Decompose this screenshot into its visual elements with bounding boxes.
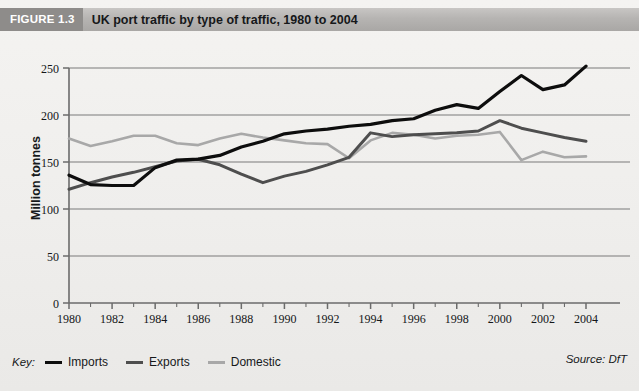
chart-plot-area: 050100150200250 198019821984198619881990… <box>0 31 639 343</box>
x-axis-ticks <box>69 303 586 309</box>
legend-label: Key: <box>12 356 35 368</box>
y-tick-label: 150 <box>41 156 59 170</box>
source-attribution: Source: DfT <box>566 353 627 365</box>
y-tick-label: 250 <box>41 62 59 76</box>
chart-legend: Key: Imports Exports Domestic <box>0 355 299 369</box>
x-tick-label: 2000 <box>488 312 512 326</box>
x-tick-label: 1986 <box>186 312 210 326</box>
x-tick-label: 1994 <box>359 312 383 326</box>
legend-text-exports: Exports <box>149 355 190 369</box>
legend-swatch-domestic <box>208 361 225 364</box>
figure-number-badge: FIGURE 1.3 <box>0 8 83 31</box>
y-tick-label: 0 <box>53 297 59 311</box>
legend-item-domestic: Domestic <box>208 355 281 369</box>
figure-title-bar: FIGURE 1.3 UK port traffic by type of tr… <box>0 8 639 31</box>
legend-swatch-imports <box>45 361 62 364</box>
series-line-domestic <box>69 132 586 160</box>
x-tick-label: 1996 <box>402 312 426 326</box>
gridlines <box>69 68 630 256</box>
x-tick-label: 1984 <box>143 312 167 326</box>
x-tick-label: 1982 <box>100 312 124 326</box>
figure-container: FIGURE 1.3 UK port traffic by type of tr… <box>0 0 639 391</box>
x-axis-tick-labels: 1980198219841986198819901992199419961998… <box>57 312 598 326</box>
legend-item-exports: Exports <box>126 355 190 369</box>
x-tick-label: 2002 <box>531 312 555 326</box>
page-title: UK port traffic by type of traffic, 1980… <box>83 13 358 27</box>
legend-text-imports: Imports <box>68 355 108 369</box>
x-tick-label: 1988 <box>229 312 253 326</box>
series-line-exports <box>69 121 586 190</box>
x-tick-label: 1998 <box>445 312 469 326</box>
legend-text-domestic: Domestic <box>231 355 281 369</box>
figure-footer: Key: Imports Exports Domestic Source: Df… <box>0 348 639 376</box>
x-tick-label: 2004 <box>574 312 598 326</box>
x-tick-label: 1992 <box>316 312 340 326</box>
y-axis-tick-labels: 050100150200250 <box>41 62 59 311</box>
y-axis-ticks <box>63 68 69 303</box>
y-tick-label: 50 <box>47 250 59 264</box>
x-tick-label: 1990 <box>272 312 296 326</box>
line-chart: 050100150200250 198019821984198619881990… <box>0 31 639 343</box>
data-series-group <box>69 66 586 189</box>
x-tick-label: 1980 <box>57 312 81 326</box>
y-tick-label: 200 <box>41 109 59 123</box>
legend-item-imports: Imports <box>45 355 108 369</box>
legend-swatch-exports <box>126 361 143 364</box>
y-tick-label: 100 <box>41 203 59 217</box>
